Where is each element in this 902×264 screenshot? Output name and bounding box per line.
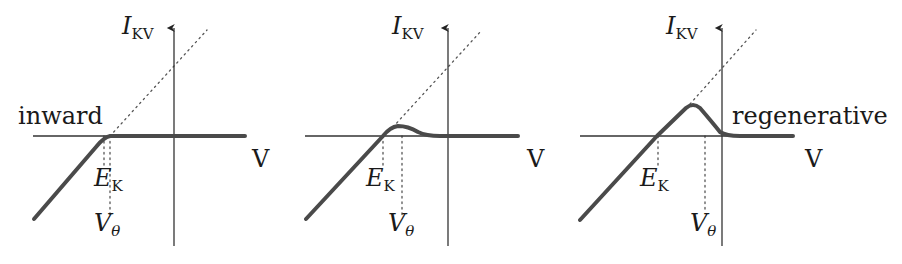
- x-axis-label: V: [805, 147, 822, 171]
- y-axis-label: IKV: [122, 14, 154, 38]
- vtheta-label: Vθ: [94, 211, 120, 235]
- ohmic-extrapolation-line: [110, 30, 207, 136]
- figure: inward IKV V EK Vθ IKV V EK Vθ regenerat…: [0, 0, 902, 264]
- vtheta-label: Vθ: [690, 211, 716, 235]
- iv-curve: [306, 126, 518, 219]
- panel-label-inward: inward: [18, 104, 103, 128]
- ohmic-extrapolation-line: [393, 30, 482, 127]
- ek-label: EK: [640, 166, 669, 190]
- vtheta-label: Vθ: [388, 211, 414, 235]
- iv-curve: [34, 136, 245, 219]
- ek-label: EK: [366, 166, 395, 190]
- ek-label: EK: [94, 166, 123, 190]
- y-axis-label: IKV: [666, 14, 698, 38]
- y-axis-label: IKV: [392, 14, 424, 38]
- panel-label-regenerative: regenerative: [732, 104, 888, 128]
- x-axis-label: V: [252, 147, 269, 171]
- x-axis-label: V: [527, 147, 544, 171]
- ohmic-extrapolation-line: [690, 30, 756, 104]
